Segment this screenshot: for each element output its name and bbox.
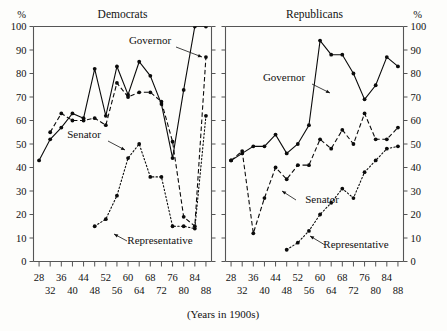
y-tick-label: 70 [411,92,422,103]
x-tick-label: 28 [226,272,237,283]
y-axis-unit-left: % [17,9,26,20]
data-point [251,231,255,235]
y-tick-label: 60 [411,115,422,126]
data-point [160,100,164,104]
plot-area [229,39,400,252]
data-point [274,133,278,137]
annotation-governor-republicans-label: Governor [263,71,305,83]
x-tick-label: 60 [123,272,134,283]
annotation-senator-republicans-arrow [282,191,286,195]
data-point [374,83,378,87]
panel-title: Republicans [286,8,343,21]
data-point [363,97,367,101]
data-point [352,142,356,146]
annotation-governor-democrats-label: Governor [129,34,171,46]
x-tick-label: 68 [145,272,156,283]
y-tick-label: 80 [16,68,27,79]
data-point [352,72,356,76]
data-point [93,67,97,71]
annotation-senator-democrats-label: Senator [67,128,101,140]
data-point [396,65,400,69]
x-tick-label: 56 [304,285,315,296]
data-point [71,119,75,123]
y-tick-label: 70 [16,92,27,103]
data-point [340,53,344,57]
data-point [374,137,378,141]
x-tick-label: 76 [359,272,370,283]
data-point [137,142,141,146]
y-tick-label: 50 [16,139,27,150]
series-line-governor [231,41,398,161]
data-point [104,123,108,127]
panel-democrats: 0102030405060708090100283236404448525660… [11,8,216,296]
x-tick-label: 72 [156,285,167,296]
x-tick-label: 76 [167,272,178,283]
series-line-representative [287,146,398,249]
x-tick-label: 48 [89,285,100,296]
data-point [171,224,175,228]
y-tick-label: 30 [411,186,422,197]
data-point [204,25,208,29]
x-tick-label: 28 [34,272,45,283]
data-point [318,213,322,217]
data-point [274,166,278,170]
data-point [93,224,97,228]
y-tick-label: 0 [21,256,26,267]
x-tick-label: 36 [248,272,259,283]
data-point [396,144,400,148]
data-point [182,215,186,219]
data-point [363,170,367,174]
y-tick-label: 20 [411,209,422,220]
data-point [307,163,311,167]
data-point [137,60,141,64]
data-point [385,147,389,151]
data-point [148,175,152,179]
data-point [240,149,244,153]
x-tick-label: 72 [348,285,359,296]
data-point [59,126,63,130]
data-point [148,74,152,78]
y-tick-label: 90 [16,45,27,56]
data-point [385,55,389,59]
x-tick-label: 56 [112,285,123,296]
data-point [329,147,333,151]
data-point [48,137,52,141]
data-point [115,65,119,69]
x-tick-label: 64 [134,285,145,296]
y-tick-label: 40 [411,162,422,173]
y-tick-label: 20 [16,209,27,220]
data-point [182,88,186,92]
series-line-senator [50,57,206,226]
annotation-representative-democrats-label: Representative [127,234,192,246]
data-point [193,227,197,231]
x-tick-label: 80 [178,285,189,296]
data-point [126,156,130,160]
data-point [148,90,152,94]
data-point [285,248,289,252]
data-point [329,53,333,57]
plot-area [37,25,208,231]
x-tick-label: 52 [293,272,304,283]
x-tick-label: 44 [270,272,281,283]
x-tick-label: 80 [370,285,381,296]
data-point [363,112,367,116]
chart-figure: 0102030405060708090100283236404448525660… [0,0,447,331]
data-point [318,39,322,43]
x-tick-label: 68 [337,272,348,283]
data-point [374,159,378,163]
series-line-governor [39,27,206,161]
y-tick-label: 0 [411,256,416,267]
data-point [171,156,175,160]
x-tick-label: 40 [67,285,78,296]
data-point [263,196,267,200]
y-tick-label: 90 [411,45,422,56]
series-line-representative [95,116,206,229]
data-point [115,81,119,85]
y-tick-label: 100 [11,21,27,32]
data-point [126,95,130,99]
data-point [307,123,311,127]
y-tick-label: 50 [411,139,422,150]
data-point [193,25,197,29]
y-tick-label: 100 [411,21,427,32]
x-tick-label: 48 [281,285,292,296]
